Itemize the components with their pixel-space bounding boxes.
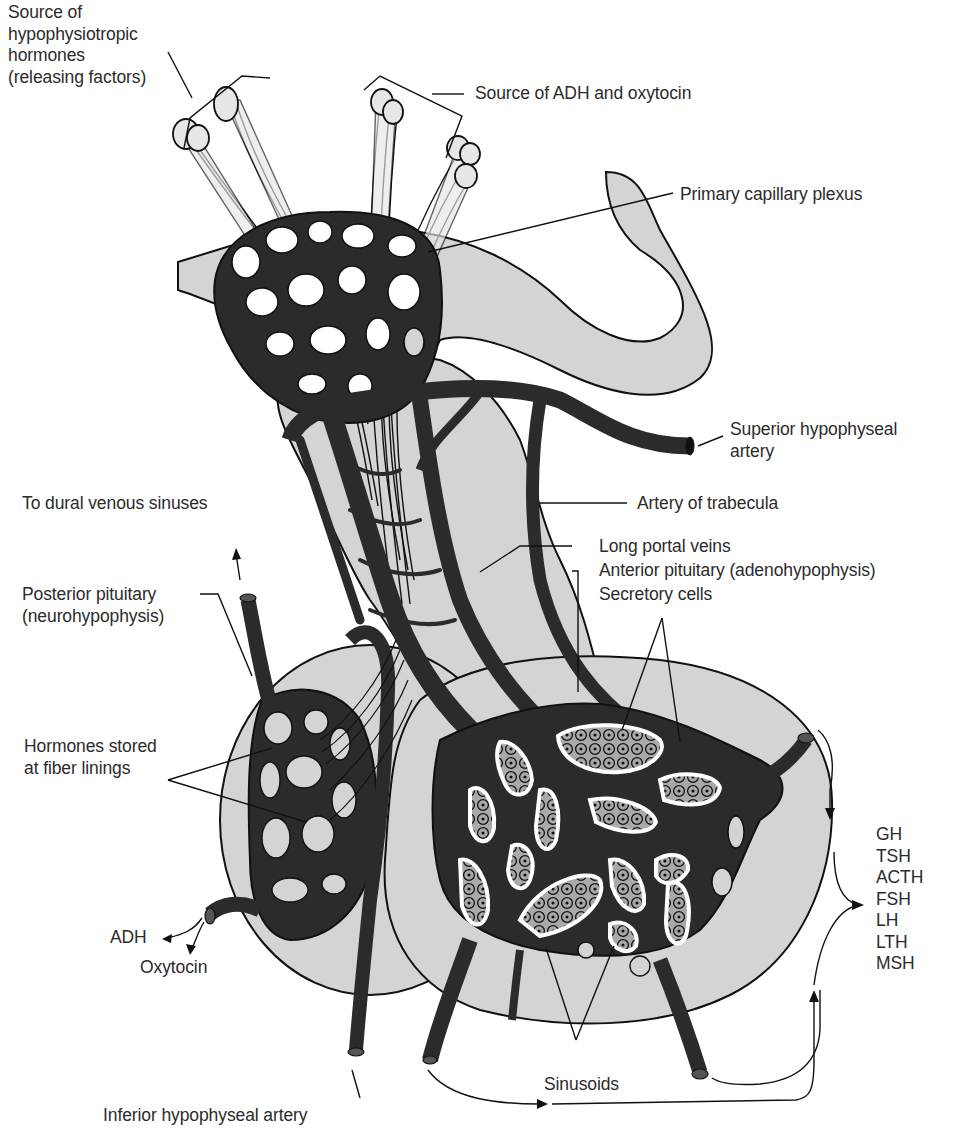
label-anterior-pituitary: Anterior pituitary (adenohypophysis) [599,560,876,581]
label-hormones-stored: Hormones stored at fiber linings [24,736,157,779]
label-line: hormones [8,45,146,67]
label-superior-hypophyseal-artery: Superior hypophyseal artery [730,419,897,462]
label-posterior-pituitary: Posterior pituitary (neurohypophysis) [22,584,164,627]
hormone-tsh: TSH [876,846,923,868]
label-line: (neurohypophysis) [22,606,164,628]
label-sinusoids: Sinusoids [544,1074,619,1095]
label-line: artery [730,441,897,463]
label-primary-capillary-plexus: Primary capillary plexus [680,184,862,205]
label-line: Hormones stored [24,736,157,758]
label-adh: ADH [110,927,147,948]
label-adh-oxytocin-source: Source of ADH and oxytocin [475,83,691,104]
label-line: hypophysiotropic [8,24,146,46]
label-line: Source of [8,2,146,24]
label-line: Posterior pituitary [22,584,164,606]
label-long-portal-veins: Long portal veins [599,536,731,557]
label-oxytocin: Oxytocin [140,957,207,978]
label-dural-venous-sinuses: To dural venous sinuses [22,493,207,514]
label-releasing-factors-source: Source of hypophysiotropic hormones (rel… [8,2,146,88]
hormone-fsh: FSH [876,889,923,911]
hormone-lh: LH [876,910,923,932]
label-line: at fiber linings [24,758,157,780]
anterior-hormone-list: GH TSH ACTH FSH LH LTH MSH [876,824,923,975]
label-secretory-cells: Secretory cells [599,584,712,605]
label-line: (releasing factors) [8,67,146,89]
hormone-acth: ACTH [876,867,923,889]
label-line: Superior hypophyseal [730,419,897,441]
label-artery-of-trabecula: Artery of trabecula [637,493,778,514]
label-inferior-hypophyseal-artery: Inferior hypophyseal artery [103,1105,308,1126]
hormone-gh: GH [876,824,923,846]
hormone-msh: MSH [876,953,923,975]
hormone-lth: LTH [876,932,923,954]
